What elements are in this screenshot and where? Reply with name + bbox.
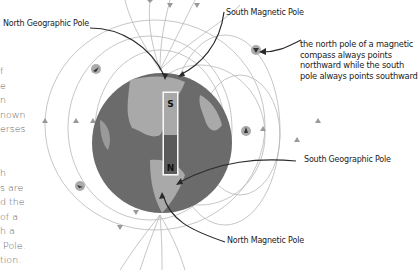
side-text-bottom: h s are d the of a h a Pole. tion. <box>0 166 26 268</box>
magnet-north-letter: N <box>167 163 175 173</box>
magnet-south-letter: S <box>167 99 173 109</box>
label-south-geographic-pole: South Geographic Pole <box>304 155 391 164</box>
bar-magnet: S N <box>163 92 178 175</box>
label-south-magnetic-pole: South Magnetic Pole <box>226 8 304 17</box>
side-text-top: f e n nown erses <box>0 64 26 137</box>
compass-note: the north pole of a magnetic compass alw… <box>300 39 418 81</box>
label-north-geographic-pole: North Geographic Pole <box>3 19 89 28</box>
label-north-magnetic-pole: North Magnetic Pole <box>227 236 304 245</box>
